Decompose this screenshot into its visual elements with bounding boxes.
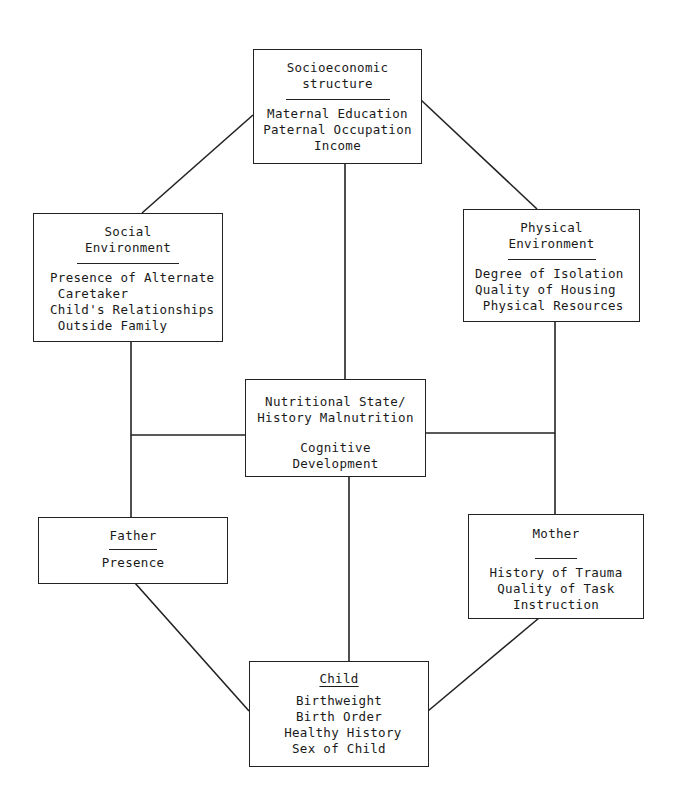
mother-box: Mother History of Trauma Quality of Task… [468,514,644,619]
connector-father-child [135,583,249,711]
item-instruction: Instruction [469,597,643,613]
cognitive-label: Cognitive [246,440,425,456]
item-history-trauma: History of Trauma [469,565,643,581]
item-maternal-education: Maternal Education [254,106,421,122]
item-paternal-occupation: Paternal Occupation [254,122,421,138]
item-birthweight: Birthweight [250,693,428,709]
father-items: Presence [39,555,227,571]
item-healthy-history: Healthy History [250,725,428,741]
item-quality-task: Quality of Task [469,581,643,597]
item-degree-isolation: Degree of Isolation [475,266,639,282]
divider [109,549,157,550]
development-label: Development [246,456,425,472]
item-outside-family: Outside Family [50,318,222,334]
item-birth-order: Birth Order [250,709,428,725]
item-physical-resources: Physical Resources [475,298,639,314]
physical-environment-title: Physical Environment [464,220,639,252]
connector-mother-child [428,618,539,711]
spacer [246,426,425,440]
mother-items: History of Trauma Quality of Task Instru… [469,565,643,613]
child-items: Birthweight Birth Order Healthy History … [250,693,428,757]
item-childs-relationships: Child's Relationships [50,302,222,318]
history-malnutrition-label: History Malnutrition [246,410,425,426]
item-income: Income [254,138,421,154]
item-quality-housing: Quality of Housing [475,282,639,298]
divider [77,263,179,264]
child-box: Child Birthweight Birth Order Healthy Hi… [249,661,429,767]
father-box: Father Presence [38,517,228,584]
physical-environment-box: Physical Environment Degree of Isolation… [463,209,640,322]
physical-environment-items: Degree of Isolation Quality of Housing P… [464,266,639,314]
father-title: Father [39,528,227,544]
child-title: Child [250,671,428,687]
social-environment-items: Presence of Alternate Caretaker Child's … [34,270,222,334]
mother-title: Mother [469,526,643,542]
divider [286,99,390,100]
item-caretaker: Caretaker [50,286,222,302]
socioeconomic-title: Socioeconomic structure [254,60,421,92]
item-presence-alternate: Presence of Alternate [50,270,222,286]
item-sex-of-child: Sex of Child [250,741,428,757]
social-environment-box: Social Environment Presence of Alternate… [33,213,223,342]
socioeconomic-box: Socioeconomic structure Maternal Educati… [253,49,422,164]
social-environment-title: Social Environment [34,224,222,256]
socioeconomic-items: Maternal Education Paternal Occupation I… [254,106,421,154]
connector-socioeconomic-social [142,115,253,213]
divider [508,259,596,260]
connector-socioeconomic-physical [421,100,537,209]
item-presence: Presence [39,555,227,571]
nutritional-state-box: Nutritional State/ History Malnutrition … [245,379,426,477]
divider [535,558,577,559]
nutritional-state-label: Nutritional State/ [246,394,425,410]
